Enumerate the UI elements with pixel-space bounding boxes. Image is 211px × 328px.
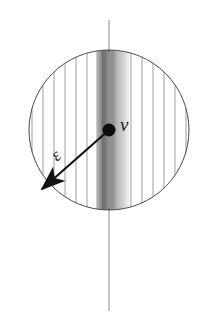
- physics-figure-svg: v ε: [0, 0, 211, 328]
- figure-container: v ε: [0, 0, 211, 328]
- velocity-label: v: [120, 114, 129, 135]
- center-velocity-dot: [103, 124, 116, 137]
